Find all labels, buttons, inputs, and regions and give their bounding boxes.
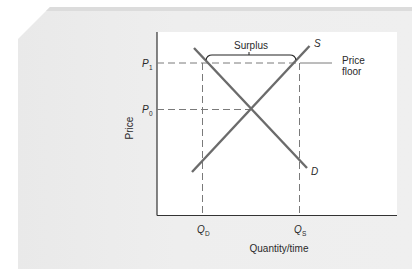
price-floor-label-line2: floor xyxy=(342,66,362,77)
svg-text:P: P xyxy=(142,104,149,115)
p1-tick-label: P 1 xyxy=(142,58,153,71)
svg-text:P: P xyxy=(142,58,149,69)
y-axis-title: Price xyxy=(124,116,135,139)
x-axis-title: Quantity/time xyxy=(250,243,309,254)
svg-text:Q: Q xyxy=(294,224,302,235)
p0-tick-label: P 0 xyxy=(142,104,153,117)
surplus-label: Surplus xyxy=(234,40,268,51)
svg-text:S: S xyxy=(302,230,307,237)
svg-text:Q: Q xyxy=(197,224,205,235)
supply-demand-chart: Surplus S D Price floor P 1 P 0 Q D Q S … xyxy=(0,0,412,278)
qd-tick-label: Q D xyxy=(197,224,210,237)
svg-text:1: 1 xyxy=(149,64,153,71)
qs-tick-label: Q S xyxy=(294,224,307,237)
supply-label: S xyxy=(314,38,321,49)
demand-label: D xyxy=(311,166,318,177)
svg-text:0: 0 xyxy=(149,110,153,117)
svg-text:D: D xyxy=(205,230,210,237)
price-floor-label-line1: Price xyxy=(342,55,365,66)
